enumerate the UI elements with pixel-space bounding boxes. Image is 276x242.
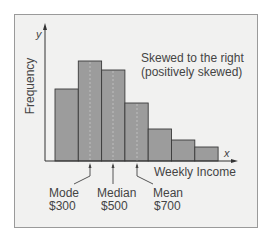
median-arrowhead-icon bbox=[112, 163, 115, 168]
x-axis-arrow-icon bbox=[231, 159, 238, 163]
mean-arrow bbox=[137, 165, 153, 184]
mode-value: $300 bbox=[49, 199, 76, 213]
y-axis-letter: y bbox=[35, 28, 43, 40]
x-axis-label: Weekly Income bbox=[154, 165, 236, 179]
y-axis-arrow-icon bbox=[43, 23, 47, 30]
median-label: Median bbox=[97, 186, 136, 200]
histogram-bar bbox=[125, 103, 148, 161]
y-axis-label: Frequency bbox=[23, 58, 37, 115]
x-axis-letter: x bbox=[223, 147, 230, 159]
mode-label: Mode bbox=[49, 186, 79, 200]
mode-arrowhead-icon bbox=[89, 163, 92, 168]
histogram-bar bbox=[195, 147, 218, 161]
skew-annotation-line1: Skewed to the right bbox=[141, 51, 244, 65]
mean-value: $700 bbox=[154, 199, 181, 213]
mode-arrow bbox=[74, 165, 90, 184]
mean-arrowhead-icon bbox=[136, 163, 139, 168]
skew-annotation-line2: (positively skewed) bbox=[141, 65, 242, 79]
histogram-bar bbox=[55, 89, 78, 161]
marker-arrowheads bbox=[89, 163, 139, 168]
histogram-bar bbox=[148, 129, 171, 161]
median-value: $500 bbox=[101, 199, 128, 213]
histogram-figure: y x Frequency Weekly Income Skewed to th… bbox=[0, 0, 276, 242]
histogram-bar bbox=[172, 140, 195, 161]
mean-label: Mean bbox=[153, 186, 183, 200]
